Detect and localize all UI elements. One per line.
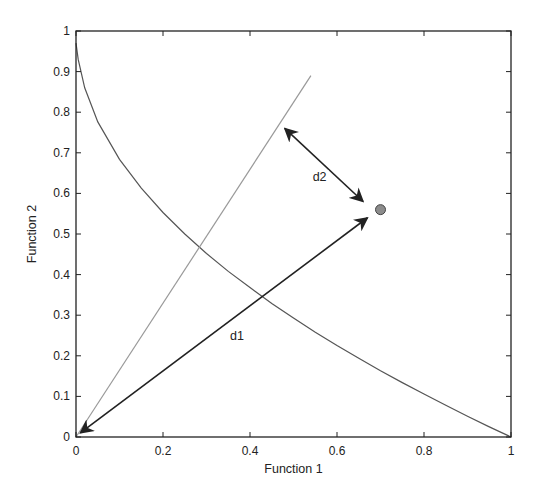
y-tick-label: 0.8 bbox=[53, 105, 70, 119]
annotation-layer: d1d2 bbox=[80, 128, 385, 433]
x-tick-label: 0.2 bbox=[155, 444, 172, 458]
d1-label: d1 bbox=[230, 329, 244, 343]
x-tick-label: 1 bbox=[508, 444, 515, 458]
x-tick-label: 0 bbox=[73, 444, 80, 458]
y-tick-label: 0.6 bbox=[53, 186, 70, 200]
y-tick-label: 0.5 bbox=[53, 227, 70, 241]
solution-point bbox=[376, 205, 386, 215]
x-axis-ticks: 00.20.40.60.81 bbox=[73, 31, 515, 458]
y-axis-ticks: 00.10.20.30.40.50.60.70.80.91 bbox=[53, 24, 511, 444]
d2-label: d2 bbox=[313, 170, 327, 184]
y-tick-label: 0.9 bbox=[53, 65, 70, 79]
x-tick-label: 0.4 bbox=[242, 444, 259, 458]
y-tick-label: 0.2 bbox=[53, 349, 70, 363]
y-tick-label: 0.1 bbox=[53, 389, 70, 403]
d1-arrow bbox=[80, 218, 367, 433]
axes-frame bbox=[76, 31, 511, 437]
series-layer bbox=[76, 43, 511, 437]
x-axis-label: Function 1 bbox=[264, 462, 322, 476]
y-axis-label: Function 2 bbox=[25, 205, 39, 263]
y-tick-label: 0.3 bbox=[53, 308, 70, 322]
y-tick-label: 0 bbox=[63, 430, 70, 444]
d2-arrow bbox=[285, 128, 363, 201]
chart-canvas: d1d2 00.20.40.60.81 00.10.20.30.40.50.60… bbox=[0, 0, 540, 499]
x-tick-label: 0.6 bbox=[329, 444, 346, 458]
x-tick-label: 0.8 bbox=[416, 444, 433, 458]
y-tick-label: 0.4 bbox=[53, 268, 70, 282]
y-tick-label: 0.7 bbox=[53, 146, 70, 160]
y-tick-label: 1 bbox=[63, 24, 70, 38]
reference-direction-line bbox=[76, 76, 311, 437]
